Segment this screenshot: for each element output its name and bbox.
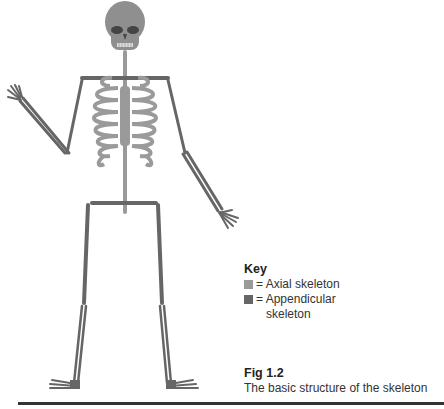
figure-caption-text: The basic structure of the skeleton	[244, 381, 427, 396]
skeleton-diagram	[0, 0, 444, 409]
left-leg	[50, 205, 88, 389]
legend-title: Key	[244, 262, 340, 277]
skull	[105, 1, 145, 50]
legend-item-axial: = Axial skeleton	[244, 277, 340, 292]
axial-swatch	[244, 280, 253, 289]
right-arm	[168, 80, 238, 228]
legend: Key = Axial skeleton = Appendicular skel…	[244, 262, 340, 322]
figure-label: Fig 1.2	[244, 366, 427, 381]
right-leg	[158, 205, 198, 389]
legend-label-appendicular: = Appendicular	[256, 292, 336, 306]
bottom-rule	[18, 402, 444, 405]
legend-label-appendicular-2: skeleton	[256, 307, 311, 321]
figure-caption: Fig 1.2 The basic structure of the skele…	[244, 366, 427, 396]
appendicular-swatch	[244, 295, 253, 304]
sternum	[120, 86, 130, 146]
legend-item-appendicular: = Appendicular skeleton	[244, 292, 340, 322]
legend-label-axial: = Axial skeleton	[256, 277, 340, 292]
left-arm	[8, 80, 82, 153]
